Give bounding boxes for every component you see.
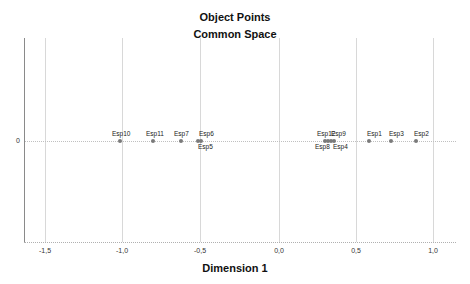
point-label: Esp8 (315, 143, 330, 150)
point-label: Esp6 (199, 130, 214, 137)
x-tick-label: 0,0 (274, 247, 284, 254)
point-label: Esp1 (367, 130, 382, 137)
chart-subtitle: Common Space (0, 28, 470, 40)
point-label: Esp4 (333, 143, 348, 150)
point-label: Esp7 (174, 130, 189, 137)
point-label: Esp2 (414, 130, 429, 137)
x-tick-label: -0,5 (194, 247, 206, 254)
data-point (414, 139, 418, 143)
point-label: Esp3 (389, 130, 404, 137)
x-axis-title: Dimension 1 (0, 262, 470, 274)
point-label: Esp5 (198, 143, 213, 150)
gridline-x (45, 38, 46, 242)
x-tick-label: 1,0 (428, 247, 438, 254)
point-label: Esp11 (146, 130, 164, 137)
gridline-x (356, 38, 357, 242)
data-point (367, 139, 371, 143)
chart-title: Object Points (0, 11, 470, 23)
y-tick-label: 0 (16, 137, 20, 144)
data-point (118, 139, 122, 143)
x-tick-label: 0,5 (351, 247, 361, 254)
data-point (179, 139, 183, 143)
gridline-x (279, 38, 280, 242)
x-tick-label: -1,5 (39, 247, 51, 254)
gridline-x (433, 38, 434, 242)
x-axis (24, 242, 456, 243)
x-tick-label: -1,0 (116, 247, 128, 254)
y-axis (24, 38, 25, 242)
gridline-x (122, 38, 123, 242)
data-point (151, 139, 155, 143)
data-point (389, 139, 393, 143)
point-label: Esp10 (112, 130, 130, 137)
point-label: Esp9 (331, 130, 346, 137)
